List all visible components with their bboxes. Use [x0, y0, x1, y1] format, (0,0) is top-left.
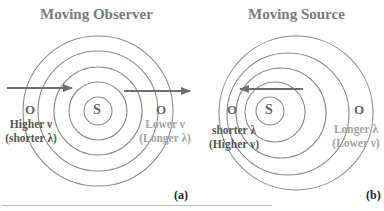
panel-a-right-caption: Lower ν (Longer λ) [136, 117, 194, 145]
panel-b-observer-right: O [354, 102, 364, 118]
wavefronts-shifted [219, 36, 373, 190]
panel-b-title: Moving Source [248, 6, 345, 23]
panel-b-tag: (b) [366, 188, 381, 203]
panel-a-left-line1: Higher ν [3, 117, 59, 131]
panel-a-left-caption: Higher ν (shorter λ) [3, 117, 59, 145]
panel-b-source-label: S [265, 102, 273, 118]
panel-a-observer-right: O [156, 102, 166, 118]
panel-b-left-line2: (Higher ν) [202, 137, 266, 151]
panel-b-left-line1: shorter λ [202, 123, 266, 137]
panel-b-right-line2: (Lower ν) [328, 136, 384, 150]
panel-b-right-line1: Longer λ [328, 122, 384, 136]
bottom-divider [2, 205, 272, 206]
panel-a-title: Moving Observer [40, 6, 153, 23]
panel-b-observer-left: O [227, 102, 237, 118]
panel-a-right-line1: Lower ν [136, 117, 194, 131]
panel-b-left-caption: shorter λ (Higher ν) [202, 123, 266, 151]
panel-a-observer-left: O [25, 102, 35, 118]
panel-a-source-label: S [93, 102, 101, 118]
doppler-diagram-graphics [0, 0, 384, 211]
panel-b-right-caption: Longer λ (Lower ν) [328, 122, 384, 150]
panel-a-tag: (a) [174, 188, 188, 203]
panel-a-left-line2: (shorter λ) [3, 131, 59, 145]
panel-a-right-line2: (Longer λ) [136, 131, 194, 145]
